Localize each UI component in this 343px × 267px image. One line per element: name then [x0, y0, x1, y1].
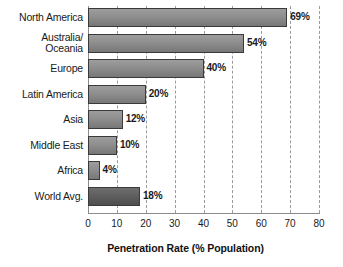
x-axis-line — [88, 213, 320, 214]
bar-value-label: 54% — [247, 36, 266, 50]
x-tick-80: 80 — [304, 218, 334, 230]
bar — [88, 59, 204, 78]
bar-row: 12% — [88, 110, 319, 129]
gridline-80 — [319, 6, 320, 213]
bar — [88, 187, 140, 206]
category-label: North America — [0, 12, 83, 24]
category-label: Australia/ Oceania — [0, 32, 83, 55]
bar-value-label: 12% — [126, 112, 145, 126]
x-tick-70: 70 — [275, 218, 305, 230]
bar-value-label: 18% — [143, 189, 162, 203]
bar — [88, 8, 287, 27]
x-tick-30: 30 — [160, 218, 190, 230]
bar — [88, 110, 123, 129]
x-tick-40: 40 — [189, 218, 219, 230]
bar — [88, 136, 117, 155]
x-tick-10: 10 — [102, 218, 132, 230]
bar-row: 69% — [88, 8, 319, 27]
bar-row: 10% — [88, 136, 319, 155]
bar — [88, 85, 146, 104]
x-tick-50: 50 — [217, 218, 247, 230]
bar-value-label: 4% — [103, 163, 117, 177]
bar-row: 54% — [88, 34, 319, 53]
bar-row: 20% — [88, 85, 319, 104]
category-label: Africa — [0, 165, 83, 177]
category-label: Asia — [0, 114, 83, 126]
x-tick-0: 0 — [73, 218, 103, 230]
category-label: Europe — [0, 63, 83, 75]
bar — [88, 161, 100, 180]
category-label: Middle East — [0, 140, 83, 152]
x-tick-20: 20 — [131, 218, 161, 230]
bar-value-label: 10% — [120, 138, 139, 152]
x-tick-60: 60 — [246, 218, 276, 230]
bar-row: 4% — [88, 161, 319, 180]
category-label: World Avg. — [0, 191, 83, 203]
x-axis-title: Penetration Rate (% Population) — [0, 242, 343, 254]
bar-value-label: 40% — [207, 61, 226, 75]
category-label: Latin America — [0, 89, 83, 101]
bar-row: 40% — [88, 59, 319, 78]
bar-chart: 69%54%40%20%12%10%4%18% North AmericaAus… — [0, 0, 343, 267]
bar-row: 18% — [88, 187, 319, 206]
bar-value-label: 69% — [290, 10, 309, 24]
bar — [88, 34, 244, 53]
bar-value-label: 20% — [149, 87, 168, 101]
